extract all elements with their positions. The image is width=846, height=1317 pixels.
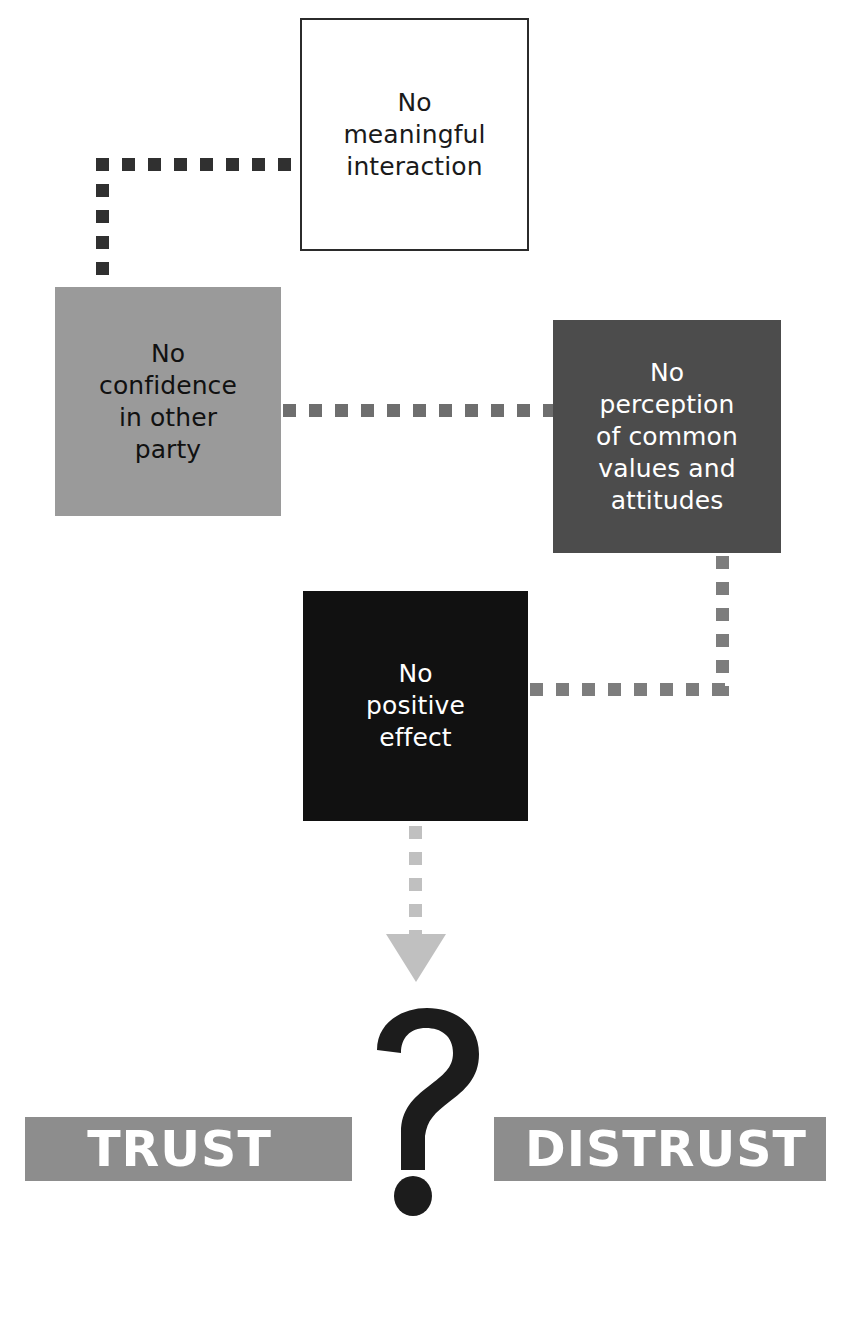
node-no-meaningful-interaction[interactable]: No meaningful interaction [300,18,529,251]
outcome-band-distrust-label: DISTRUST [525,1121,807,1178]
question-mark-icon [361,1006,485,1216]
outcome-band-trust-label: TRUST [87,1121,272,1178]
connector-confidence-to-perception [283,404,556,417]
node-no-meaningful-interaction-label: No meaningful interaction [337,87,491,183]
node-no-perception-of-common-values[interactable]: No perception of common values and attit… [553,320,781,553]
node-no-confidence-in-other-party[interactable]: No confidence in other party [55,287,281,516]
arrow-down-icon [386,934,446,982]
connector-interaction-to-confidence-horizontal [96,158,304,171]
node-no-positive-effect[interactable]: No positive effect [303,591,528,821]
connector-perception-to-effect-vertical [716,556,729,696]
outcome-band-distrust[interactable]: DISTRUST [494,1117,826,1181]
diagram-canvas: No meaningful interaction No confidence … [0,0,846,1317]
outcome-band-trust[interactable]: TRUST [25,1117,352,1181]
node-no-positive-effect-label: No positive effect [360,658,471,754]
node-no-perception-of-common-values-label: No perception of common values and attit… [590,357,744,517]
connector-interaction-to-confidence-vertical [96,158,109,290]
connector-perception-to-effect-horizontal [530,683,729,696]
node-no-confidence-in-other-party-label: No confidence in other party [93,338,243,466]
connector-effect-to-outcome-vertical [409,826,422,941]
